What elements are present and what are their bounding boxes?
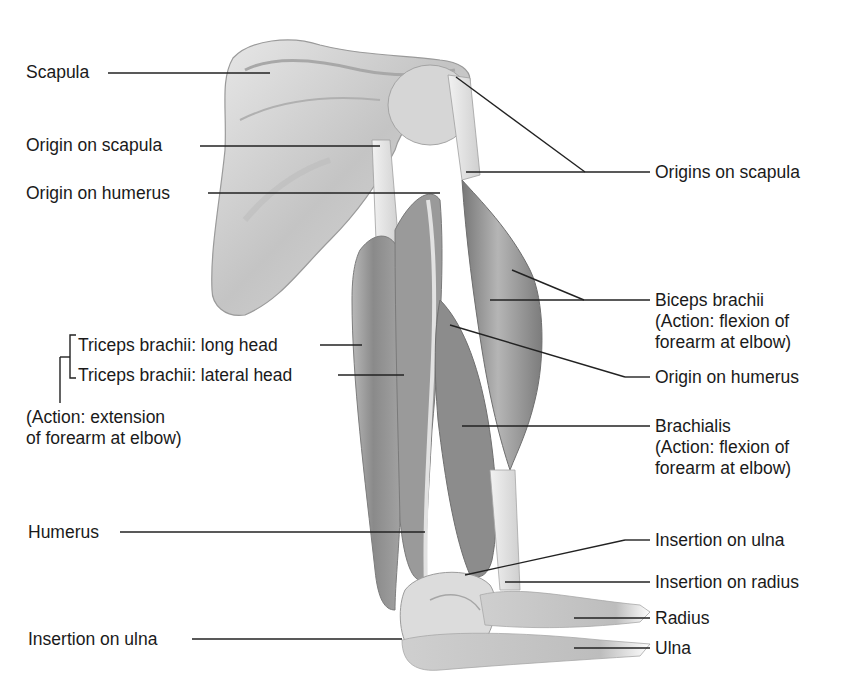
brachialis-line3: forearm at elbow) xyxy=(655,458,791,479)
radius-bone-shape xyxy=(480,591,650,627)
label-triceps-long-head: Triceps brachii: long head xyxy=(78,335,278,356)
brachialis-line1: Brachialis xyxy=(655,416,791,437)
label-brachialis: Brachialis (Action: flexion of forearm a… xyxy=(655,416,791,479)
label-triceps-lateral-head: Triceps brachii: lateral head xyxy=(78,365,292,386)
label-origin-on-scapula: Origin on scapula xyxy=(26,135,162,156)
ulna-bone-shape xyxy=(402,633,650,670)
label-insertion-on-ulna-left: Insertion on ulna xyxy=(28,629,157,650)
triceps-action-line2: of forearm at elbow) xyxy=(26,428,182,449)
label-insertion-on-radius: Insertion on radius xyxy=(655,572,799,593)
label-ulna: Ulna xyxy=(655,638,691,659)
label-radius: Radius xyxy=(655,608,709,629)
biceps-line3: forearm at elbow) xyxy=(655,332,791,353)
brachialis-line2: (Action: flexion of xyxy=(655,437,791,458)
triceps-action-line1: (Action: extension xyxy=(26,407,182,428)
label-humerus: Humerus xyxy=(28,522,99,543)
label-origins-on-scapula: Origins on scapula xyxy=(655,162,800,183)
label-triceps-action: (Action: extension of forearm at elbow) xyxy=(26,407,182,449)
label-origin-on-humerus-left: Origin on humerus xyxy=(26,183,170,204)
arm-muscle-diagram: Scapula Origin on scapula Origin on hume… xyxy=(0,0,852,697)
biceps-line2: (Action: flexion of xyxy=(655,311,791,332)
label-scapula: Scapula xyxy=(26,62,89,83)
biceps-line1: Biceps brachii xyxy=(655,290,791,311)
label-insertion-on-ulna-right: Insertion on ulna xyxy=(655,530,784,551)
label-biceps-brachii: Biceps brachii (Action: flexion of forea… xyxy=(655,290,791,353)
label-origin-on-humerus-right: Origin on humerus xyxy=(655,367,799,388)
